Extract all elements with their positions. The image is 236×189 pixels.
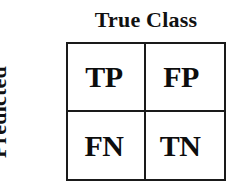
- matrix-cell-label-tn: TN: [160, 131, 201, 161]
- matrix-cell-label-fn: FN: [85, 131, 124, 161]
- matrix-grid: TP FP FN TN: [66, 42, 226, 181]
- row-axis-title-line1: Predicted: [0, 66, 9, 158]
- matrix-cell-label-tp: TP: [85, 62, 122, 92]
- matrix-cell-true-positive: TP: [68, 44, 146, 112]
- matrix-cell-label-fp: FP: [163, 62, 199, 92]
- confusion-matrix-figure: True Class Predicted Class TP FP FN TN: [0, 0, 236, 189]
- matrix-cell-false-negative: FN: [68, 112, 146, 180]
- matrix-cell-false-positive: FP: [146, 44, 224, 112]
- row-axis-title: Predicted Class: [0, 42, 64, 182]
- matrix-cell-true-negative: TN: [146, 112, 224, 180]
- column-axis-title: True Class: [66, 4, 226, 36]
